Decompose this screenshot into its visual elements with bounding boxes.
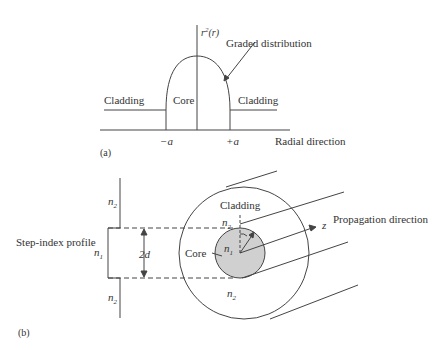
n2-cladding-top-label: n2	[222, 216, 232, 231]
cylinder-line-4	[270, 285, 358, 319]
arrow-up-icon	[141, 229, 147, 235]
y-axis-label: r2(r)	[201, 26, 220, 39]
core-label-b: Core	[185, 247, 207, 259]
graded-distribution-label: Graded distribution	[226, 37, 312, 49]
tick-plus-a: +a	[226, 135, 239, 147]
step-index-profile-label: Step-index profile	[16, 236, 96, 248]
fiber-diagram: r2(r) Graded distribution Cladding Core …	[0, 0, 448, 350]
cladding-right-label: Cladding	[238, 94, 279, 106]
arrow-down-icon	[141, 271, 147, 277]
graded-profile-curve	[166, 56, 230, 130]
tick-minus-a: −a	[160, 135, 173, 147]
panel-a-label: (a)	[100, 147, 111, 159]
core-label-a: Core	[173, 94, 195, 106]
diameter-label: 2d	[139, 248, 151, 260]
n2-cladding-bottom-label: n2	[227, 287, 237, 302]
z-label: z	[321, 219, 327, 231]
propagation-direction-label: Propagation direction	[333, 213, 429, 225]
panel-b-label: (b)	[18, 327, 30, 339]
n1-profile-label: n1	[94, 246, 103, 261]
cladding-label-b: Cladding	[220, 199, 261, 211]
cylinder-line-1	[226, 171, 277, 187]
x-axis-label: Radial direction	[275, 135, 346, 147]
cladding-left-label: Cladding	[104, 94, 145, 106]
n2-bottom-label: n2	[108, 291, 118, 306]
n2-top-label: n2	[108, 195, 118, 210]
z-arrowhead-icon	[309, 225, 316, 231]
